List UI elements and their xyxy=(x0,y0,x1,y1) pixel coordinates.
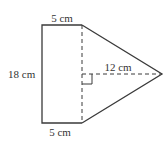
height-label: 18 cm xyxy=(8,68,36,80)
bottom-width-label: 5 cm xyxy=(49,126,71,138)
right-angle-icon xyxy=(82,74,92,84)
composite-shape-diagram: 5 cm 18 cm 12 cm 5 cm xyxy=(0,0,167,144)
triangle-height-label: 12 cm xyxy=(104,61,132,73)
top-width-label: 5 cm xyxy=(51,12,73,24)
triangle-outline xyxy=(82,25,162,123)
rectangle-outline xyxy=(42,25,82,123)
